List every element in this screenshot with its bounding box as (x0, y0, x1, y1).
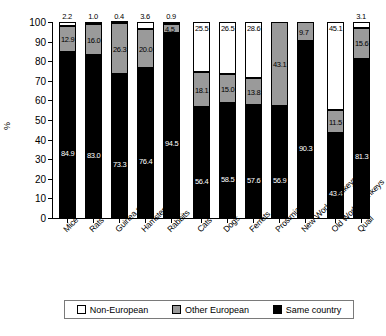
bar-value-label: 4.5 (165, 26, 175, 34)
bar-value-label: 76.4 (139, 158, 152, 166)
y-tick-label: 70 (35, 75, 46, 86)
bar-stack[interactable]: 83.016.0 (85, 22, 102, 218)
bar-segment-other-european: 20.0 (137, 29, 154, 68)
bar-value-label: 11.5 (329, 119, 342, 127)
legend-swatch-other-european (172, 305, 181, 314)
bar-segment-non-european (137, 22, 154, 29)
x-axis-category-labels: MiceRatsGuinea pigsHamstersRabbitsCatsDo… (53, 221, 373, 293)
y-tick-label: 90 (35, 36, 46, 47)
bar-value-label: 20.0 (139, 46, 152, 54)
y-tick-label: 60 (35, 95, 46, 106)
bar-segment-non-european: 26.5 (219, 22, 236, 74)
bar-stack[interactable]: 56.943.1 (271, 22, 288, 218)
bar-segment-other-european: 26.3 (111, 23, 128, 75)
y-tick-label: 80 (35, 56, 46, 67)
bar-stack[interactable]: 57.613.828.6 (245, 22, 262, 218)
bar-segment-other-european: 15.0 (219, 74, 236, 103)
y-axis-title: % (2, 122, 12, 130)
bar-column: 56.418.125.5 (193, 22, 210, 218)
bar-value-label: 15.6 (355, 40, 368, 48)
bar-segment-other-european: 13.8 (245, 78, 262, 105)
bar-segment-same-country: 76.4 (137, 68, 154, 218)
bar-segment-other-european: 4.5 (163, 24, 180, 33)
bar-stack[interactable]: 58.515.026.5 (219, 22, 236, 218)
bar-segment-other-european: 11.5 (327, 110, 344, 133)
legend-swatch-non-european (77, 305, 86, 314)
bar-segment-other-european: 43.1 (271, 22, 288, 106)
y-axis-tick-labels: 0102030405060708090100 (18, 22, 52, 218)
bar-top-value-label: 0.9 (159, 12, 183, 21)
bar-value-label: 25.5 (195, 25, 208, 33)
bar-segment-non-european (163, 22, 180, 24)
legend-label: Same country (286, 305, 342, 315)
bar-stack[interactable]: 73.326.3 (111, 22, 128, 218)
bar-value-label: 56.4 (195, 178, 208, 186)
bar-column: 76.420.03.6 (137, 22, 154, 218)
bar-segment-other-european: 18.1 (193, 72, 210, 107)
bar-value-label: 73.3 (113, 161, 126, 169)
bar-column: 73.326.30.4 (111, 22, 128, 218)
bar-value-label: 81.3 (355, 153, 368, 161)
bar-stack[interactable]: 76.420.0 (137, 22, 154, 218)
bar-top-value-label: 3.6 (133, 12, 157, 21)
x-tick-mark (201, 219, 202, 223)
bar-segment-non-european (85, 22, 102, 24)
bar-top-value-label: 2.2 (55, 12, 79, 21)
bar-column: 90.39.7 (297, 22, 314, 218)
x-tick-mark (361, 219, 362, 223)
legend-item[interactable]: Same country (273, 305, 342, 315)
x-tick-mark (145, 219, 146, 223)
bar-segment-non-european: 45.1 (327, 22, 344, 110)
bar-segment-non-european: 25.5 (193, 22, 210, 72)
bar-segment-other-european: 16.0 (85, 24, 102, 55)
bar-column: 57.613.828.6 (245, 22, 262, 218)
bar-column: 94.54.50.9 (163, 22, 180, 218)
bar-stack[interactable]: 56.418.125.5 (193, 22, 210, 218)
x-tick-mark (119, 219, 120, 223)
legend-item[interactable]: Non-European (77, 305, 149, 315)
bar-segment-same-country: 94.5 (163, 33, 180, 218)
y-tick-label: 50 (35, 115, 46, 126)
x-tick-mark (335, 219, 336, 223)
y-tick-label: 0 (40, 213, 46, 224)
bar-segment-same-country: 57.6 (245, 105, 262, 218)
bar-column: 56.943.1 (271, 22, 288, 218)
bar-value-label: 16.0 (87, 37, 100, 45)
bar-value-label: 26.5 (221, 25, 234, 33)
x-tick-mark (67, 219, 68, 223)
bar-value-label: 58.5 (221, 176, 234, 184)
bar-stack[interactable]: 90.39.7 (297, 22, 314, 218)
legend-item[interactable]: Other European (172, 305, 249, 315)
bar-value-label: 13.8 (247, 89, 260, 97)
bar-segment-same-country: 84.9 (59, 52, 76, 218)
bar-stack[interactable]: 84.912.9 (59, 22, 76, 218)
y-tick-label: 30 (35, 154, 46, 165)
bar-segment-same-country: 56.4 (193, 107, 210, 218)
x-tick-mark (171, 219, 172, 223)
bar-value-label: 12.9 (61, 36, 74, 44)
bar-segment-same-country: 73.3 (111, 74, 128, 218)
legend-label: Other European (185, 305, 249, 315)
bar-segment-other-european: 15.6 (353, 28, 370, 59)
legend-swatch-same-country (273, 305, 282, 314)
bar-value-label: 94.5 (165, 140, 178, 148)
bar-segment-other-european: 9.7 (297, 22, 314, 41)
bar-segment-same-country: 90.3 (297, 41, 314, 218)
bar-value-label: 56.9 (273, 177, 286, 185)
bar-top-value-label: 0.4 (107, 12, 131, 21)
bar-value-label: 57.6 (247, 177, 260, 185)
bar-value-label: 18.1 (195, 87, 208, 95)
x-tick-mark (279, 219, 280, 223)
bar-top-value-label: 3.1 (349, 12, 373, 21)
bar-segment-non-european (111, 21, 128, 23)
bar-value-label: 15.0 (221, 86, 234, 94)
bar-segment-same-country: 58.5 (219, 103, 236, 218)
y-tick-label: 40 (35, 134, 46, 145)
x-tick-mark (93, 219, 94, 223)
bar-segment-same-country: 83.0 (85, 55, 102, 218)
bar-value-label: 45.1 (329, 25, 342, 33)
bar-value-label: 43.1 (273, 61, 286, 69)
bar-stack[interactable]: 94.54.5 (163, 22, 180, 218)
bar-segment-same-country: 56.9 (271, 106, 288, 218)
